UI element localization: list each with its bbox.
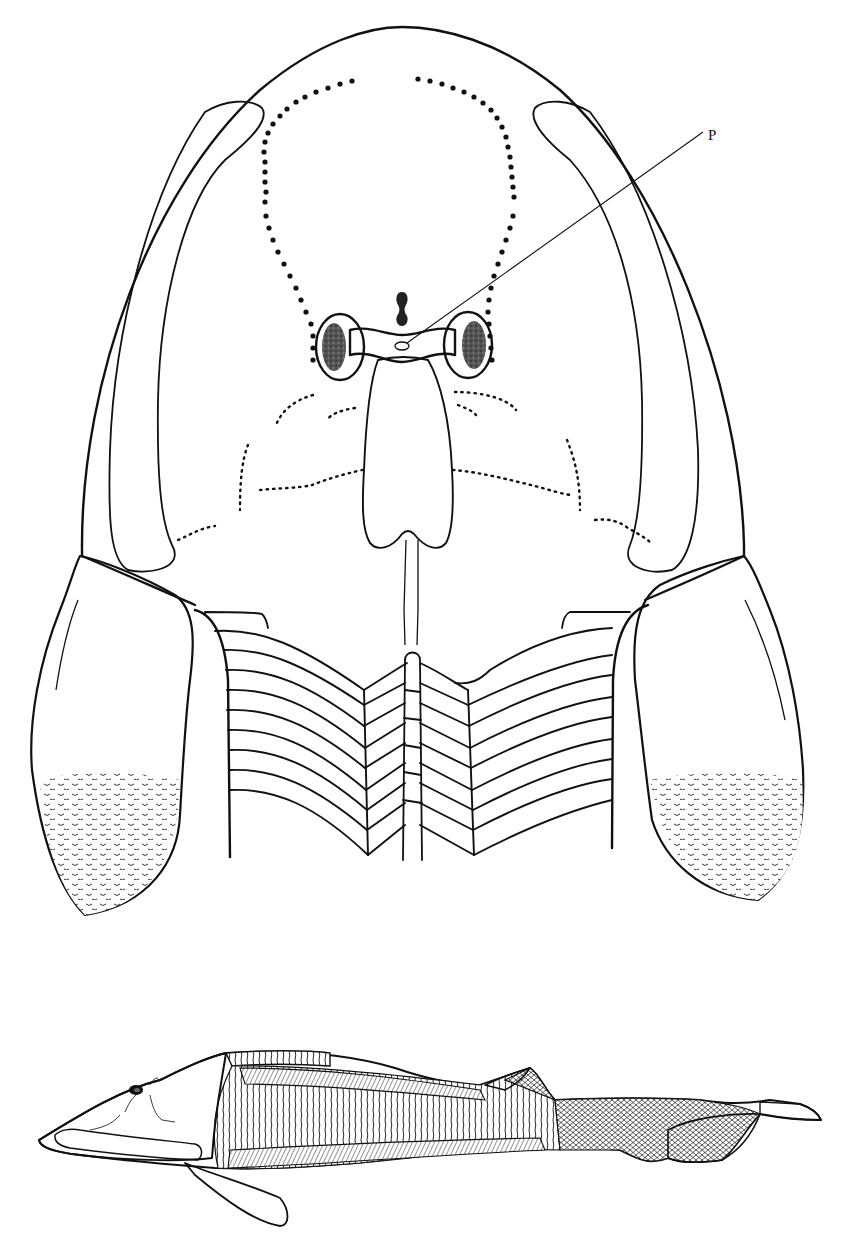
figure-canvas: P <box>0 0 855 1257</box>
left-sensory-line-dots <box>261 78 354 362</box>
left-cornual-process <box>82 545 195 605</box>
right-sensory-line-dots <box>415 76 516 362</box>
left-trunk-segments <box>215 631 407 855</box>
nasohypophysial-opening <box>396 292 407 326</box>
right-body-wall <box>612 605 648 848</box>
side-pectoral-fin <box>185 1163 288 1226</box>
median-dorsal-ridge <box>404 540 418 645</box>
left-body-wall <box>195 610 230 857</box>
side-eye-highlight <box>134 1088 140 1092</box>
head-shield-outline <box>82 27 744 545</box>
right-eye-pupil <box>462 321 486 369</box>
lateral-view-drawing <box>39 1051 821 1226</box>
left-lateral-field <box>109 102 263 572</box>
side-tail-tip <box>760 1102 821 1120</box>
right-trunk-segments <box>420 628 612 855</box>
right-pectoral-fin-tip-scales <box>650 773 803 901</box>
central-dorsal-plate <box>363 357 453 548</box>
side-dorsal-crest <box>226 1051 330 1066</box>
median-scale-column <box>403 653 422 861</box>
side-head-shield <box>39 1053 226 1160</box>
label-p-pointer <box>407 132 703 343</box>
right-scapular-block <box>562 612 630 628</box>
right-cornual-process <box>645 545 744 600</box>
pineal-opening <box>395 342 409 350</box>
left-pectoral-fin-tip-scales <box>40 773 180 916</box>
label-p: P <box>708 127 716 143</box>
dorsal-view-drawing: P <box>31 27 803 915</box>
left-eye-pupil <box>322 323 346 371</box>
dotted-sensory-curves <box>178 392 652 545</box>
right-lateral-field <box>533 102 698 572</box>
